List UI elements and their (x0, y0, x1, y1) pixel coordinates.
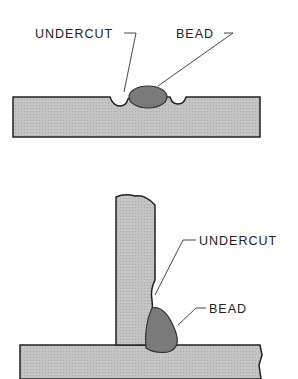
top-bead-text: BEAD (176, 27, 214, 41)
bottom-diagram: UNDERCUT BEAD (20, 195, 277, 379)
bottom-bead-label: BEAD (178, 302, 247, 325)
bottom-base-plate (20, 345, 262, 379)
bottom-undercut-text: UNDERCUT (199, 234, 277, 248)
top-undercut-text: UNDERCUT (35, 27, 113, 41)
bottom-undercut-label: UNDERCUT (155, 234, 277, 295)
bottom-bead (146, 308, 178, 353)
weld-undercut-figure: UNDERCUT BEAD UNDERCUT BEAD (0, 0, 298, 379)
top-diagram: UNDERCUT BEAD (13, 27, 260, 137)
bottom-bead-text: BEAD (209, 302, 247, 316)
top-undercut-label: UNDERCUT (35, 27, 136, 92)
top-bead-label: BEAD (158, 27, 233, 86)
top-bead (129, 86, 167, 108)
